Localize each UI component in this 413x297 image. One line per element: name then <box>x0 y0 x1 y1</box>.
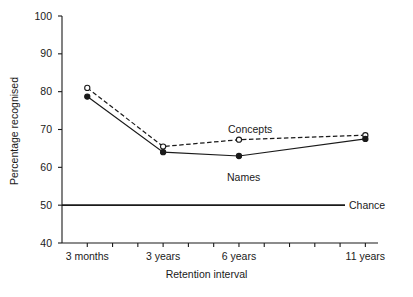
x-tick-label: 3 months <box>52 251 122 262</box>
x-tick-label: 3 years <box>128 251 198 262</box>
axis-ticks <box>58 16 365 247</box>
y-axis-title-text: Percentage recognised <box>8 77 20 185</box>
data-point-concepts <box>85 85 90 90</box>
x-axis-title: Retention interval <box>0 269 413 280</box>
y-tick-label: 100 <box>6 11 52 22</box>
annotation-concepts: Concepts <box>228 124 272 135</box>
y-tick-label: 40 <box>6 238 52 249</box>
x-tick-label: 11 years <box>330 251 400 262</box>
y-tick-label: 90 <box>6 48 52 59</box>
data-point-names <box>85 94 90 99</box>
data-series <box>85 85 368 158</box>
data-point-names <box>161 150 166 155</box>
data-point-concepts <box>161 144 166 149</box>
annotation-names: Names <box>227 172 260 183</box>
x-tick-label: 6 years <box>204 251 274 262</box>
annotation-chance: Chance <box>349 200 385 211</box>
y-tick-label: 50 <box>6 200 52 211</box>
series-line-names <box>87 97 365 156</box>
data-point-concepts <box>236 137 241 142</box>
series-line-concepts <box>87 88 365 147</box>
axes <box>62 16 378 243</box>
data-point-names <box>363 136 368 141</box>
chart-figure: 405060708090100 3 months3 years6 years11… <box>0 0 413 297</box>
data-point-names <box>236 153 241 158</box>
